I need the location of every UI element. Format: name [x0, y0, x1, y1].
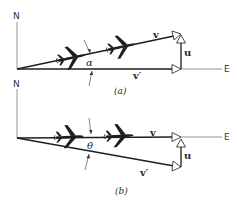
- vector-v-prime-b: [17, 138, 174, 166]
- label-u-b: u: [184, 150, 191, 161]
- label-v-prime-b: v′: [139, 167, 149, 178]
- velocity-diagram: N E v′ v u α (a) N E: [0, 0, 238, 202]
- vector-v-a: [17, 36, 174, 69]
- angle-alpha-label: α: [86, 57, 93, 68]
- east-label-b: E: [224, 132, 230, 142]
- caption-a: (a): [114, 86, 127, 96]
- arrowhead-v-prime-b: [172, 161, 181, 171]
- airplane-icon: [54, 43, 88, 72]
- panel-a: N E v′ v u α (a): [13, 11, 230, 96]
- airplane-icon: [104, 32, 138, 61]
- east-label-a: E: [224, 64, 230, 74]
- angle-theta-label: θ: [87, 140, 93, 151]
- label-v-prime-a: v′: [132, 70, 142, 81]
- label-v-a: v: [152, 29, 160, 40]
- arrowhead-v-prime-a: [172, 65, 181, 74]
- caption-b: (b): [115, 186, 128, 196]
- label-v-b: v: [149, 127, 157, 138]
- label-u-a: u: [184, 47, 191, 58]
- arrowhead-u-b: [177, 139, 186, 147]
- north-label-b: N: [13, 79, 20, 89]
- arrowhead-v-b: [172, 133, 181, 142]
- airplane-icon: [103, 123, 134, 148]
- panel-b: N E v v′ u θ (b): [13, 79, 230, 196]
- north-label-a: N: [13, 11, 20, 21]
